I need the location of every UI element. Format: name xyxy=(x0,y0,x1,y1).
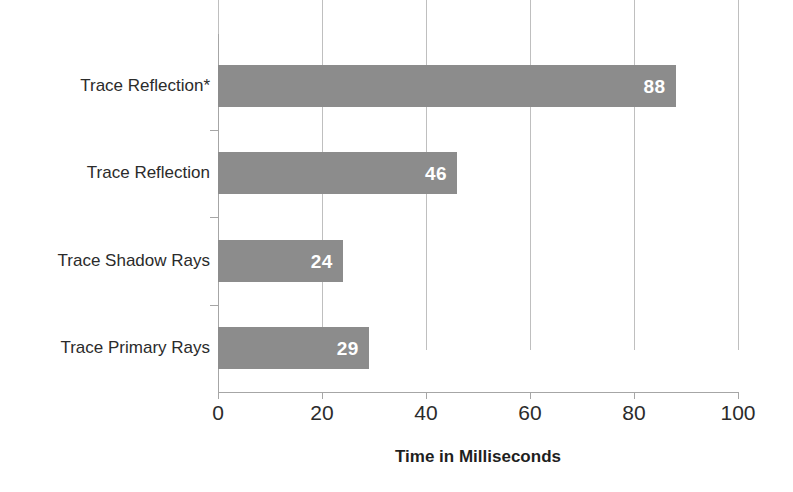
x-axis-tick-label: 40 xyxy=(386,402,466,423)
x-axis-line xyxy=(218,392,739,393)
x-axis-tick xyxy=(218,392,219,399)
gridline xyxy=(738,0,739,350)
bar: 46 xyxy=(218,152,457,194)
y-axis-tick xyxy=(210,217,218,218)
category-label: Trace Reflection* xyxy=(5,77,210,94)
bar: 29 xyxy=(218,327,369,369)
bar-chart: 88462429 Trace Reflection*Trace Reflecti… xyxy=(0,0,793,492)
bar-value-label: 24 xyxy=(311,251,333,270)
category-label: Trace Primary Rays xyxy=(5,339,210,356)
bar-value-label: 46 xyxy=(425,164,447,183)
bar-value-label: 88 xyxy=(643,76,665,95)
bar: 88 xyxy=(218,65,676,107)
bar-value-label: 29 xyxy=(337,339,359,358)
category-label: Trace Shadow Rays xyxy=(5,252,210,269)
category-axis-labels: Trace Reflection*Trace ReflectionTrace S… xyxy=(0,42,210,392)
x-axis-tick xyxy=(426,392,427,399)
x-axis-title: Time in Milliseconds xyxy=(218,448,738,465)
x-axis-tick-label: 60 xyxy=(490,402,570,423)
y-axis-tick xyxy=(210,305,218,306)
x-axis-tick xyxy=(530,392,531,399)
x-axis-tick-label: 80 xyxy=(594,402,674,423)
x-axis-tick xyxy=(322,392,323,399)
y-axis-tick xyxy=(210,130,218,131)
bar: 24 xyxy=(218,240,343,282)
plot-area: 88462429 xyxy=(218,42,738,392)
category-label: Trace Reflection xyxy=(5,164,210,181)
x-axis-tick-label: 20 xyxy=(282,402,362,423)
x-axis-tick xyxy=(738,392,739,399)
x-axis-tick-label: 100 xyxy=(698,402,778,423)
x-axis-tick xyxy=(634,392,635,399)
x-axis-tick-label: 0 xyxy=(178,402,258,423)
